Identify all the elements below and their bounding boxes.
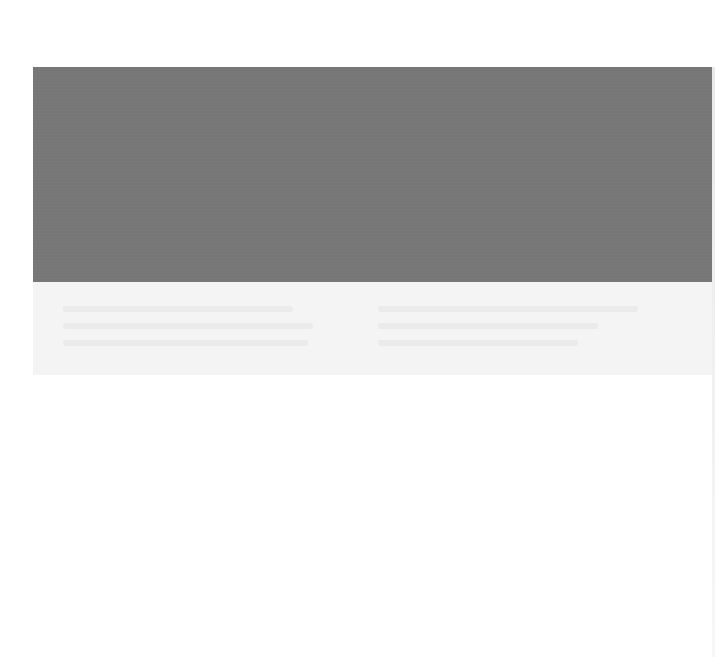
caption-band bbox=[33, 282, 715, 375]
caption-column-right bbox=[378, 306, 638, 346]
illegible-text-line bbox=[63, 323, 313, 329]
illegible-text-line bbox=[63, 306, 293, 312]
illegible-text-line bbox=[378, 323, 598, 329]
image-placeholder bbox=[33, 67, 715, 282]
document-page bbox=[0, 0, 715, 657]
illegible-text-line bbox=[378, 306, 638, 312]
illegible-text-line bbox=[63, 340, 308, 346]
illegible-text-line bbox=[378, 340, 578, 346]
caption-column-left bbox=[63, 306, 313, 346]
